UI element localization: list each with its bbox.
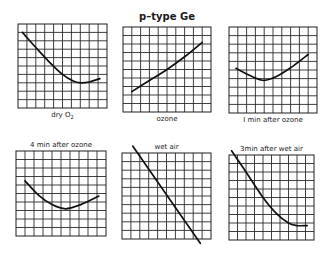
panel-label: 4 min after ozone	[30, 141, 92, 149]
panel-label: 3min after wet air	[240, 145, 303, 153]
panel-1min-after-ozone: I min after ozone	[229, 27, 317, 124]
panel-dry-o2: dry O2	[18, 24, 107, 120]
panel-label: wet air	[154, 143, 178, 151]
figure-canvas: p–type Ge dry O2 ozone I min after ozone…	[0, 0, 335, 253]
panel-label: ozone	[157, 115, 178, 123]
panel-3min-after-wet-air: 3min after wet air	[229, 145, 314, 240]
panel-wet-air: wet air	[122, 143, 211, 243]
panel-label: dry O2	[51, 111, 73, 120]
grid	[229, 27, 317, 113]
figure-title: p–type Ge	[139, 11, 195, 22]
panel-4min-after-ozone: 4 min after ozone	[16, 141, 106, 236]
grid	[18, 24, 107, 108]
grid	[16, 151, 106, 236]
panel-label: I min after ozone	[243, 116, 302, 124]
panel-ozone: ozone	[123, 27, 211, 123]
grid	[229, 155, 314, 240]
